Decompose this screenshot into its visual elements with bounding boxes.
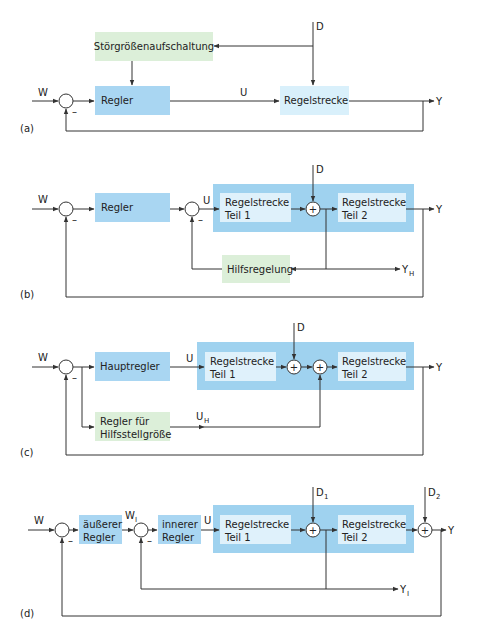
plant-part1-line1: Regelstrecke	[225, 197, 289, 208]
disturbance-d2-sub: 2	[436, 493, 440, 501]
summing-junction-inner	[134, 523, 148, 537]
plant-part2-line2: Teil 2	[341, 369, 368, 380]
plant-part1-line2: Teil 1	[224, 210, 251, 221]
feedforward-label: Störgrößenaufschaltung	[94, 41, 214, 52]
minus-sign-inner: –	[198, 214, 203, 225]
input-w: W	[38, 352, 48, 363]
plant-part2-line1: Regelstrecke	[342, 519, 406, 530]
summing-junction	[59, 360, 73, 374]
inner-output-yi: Y	[399, 584, 407, 595]
panel-b: Regelstrecke Teil 1 Regelstrecke Teil 2 …	[20, 164, 443, 300]
panel-label: (a)	[20, 123, 34, 134]
outer-controller-line2: Regler	[83, 532, 116, 543]
aux-output-yh: Y	[401, 264, 409, 275]
aux-output-sub: H	[409, 270, 414, 278]
input-w: W	[38, 87, 48, 98]
inner-setpoint-wi: W	[125, 510, 135, 521]
controller-label: Regler	[101, 95, 134, 106]
minus-sign: –	[72, 372, 77, 383]
plant-label: Regelstrecke	[284, 95, 348, 106]
output-y: Y	[447, 525, 455, 536]
plus-sign-1: +	[309, 525, 317, 536]
panel-label: (d)	[20, 608, 34, 619]
aux-controller-label: Hilfsregelung	[227, 264, 293, 275]
plant-part2-line1: Regelstrecke	[342, 356, 406, 367]
main-controller-label: Hauptregler	[100, 361, 161, 372]
panel-c: Regelstrecke Teil 1 Regelstrecke Teil 2 …	[20, 322, 443, 458]
inner-controller-line1: innerer	[162, 519, 199, 530]
panel-label: (b)	[20, 289, 34, 300]
panel-a: Störgrößenaufschaltung Regler Regelstrec…	[20, 21, 443, 134]
plus-sign: +	[309, 204, 317, 215]
aux-controller-line1: Regler für	[100, 416, 150, 427]
inner-output-sub: I	[407, 590, 409, 598]
plus-sign-1: +	[290, 362, 298, 373]
minus-sign-inner: –	[147, 535, 152, 546]
plant-part1-line2: Teil 1	[224, 532, 251, 543]
plant-part1-line2: Teil 1	[209, 369, 236, 380]
summing-junction-inner	[185, 202, 199, 216]
aux-signal-sub: H	[204, 417, 209, 425]
inner-controller-line2: Regler	[162, 532, 195, 543]
signal-u: U	[203, 195, 210, 206]
minus-sign-outer: –	[72, 214, 77, 225]
signal-u: U	[186, 353, 193, 364]
plant-part2-line2: Teil 2	[341, 532, 368, 543]
plus-sign-2: +	[421, 525, 429, 536]
panel-d: Regelstrecke Teil 1 Regelstrecke Teil 2 …	[20, 487, 455, 619]
control-diagrams: Störgrößenaufschaltung Regler Regelstrec…	[0, 0, 477, 634]
input-w: W	[34, 515, 44, 526]
aux-signal-uh: U	[196, 411, 203, 422]
panel-label: (c)	[20, 447, 33, 458]
summing-junction-outer	[59, 202, 73, 216]
minus-sign: –	[72, 106, 77, 117]
disturbance-d: D	[316, 164, 324, 175]
output-y: Y	[435, 96, 443, 107]
minus-sign-outer: –	[68, 535, 73, 546]
disturbance-d2: D	[428, 487, 436, 498]
aux-controller-line2: Hilfsstellgröße	[100, 429, 171, 440]
disturbance-d1: D	[316, 487, 324, 498]
controller-label: Regler	[101, 202, 134, 213]
inner-setpoint-sub: I	[135, 516, 137, 524]
plus-sign-2: +	[316, 362, 324, 373]
plant-part2-line2: Teil 2	[341, 210, 368, 221]
plant-part1-line1: Regelstrecke	[225, 519, 289, 530]
output-y: Y	[435, 362, 443, 373]
disturbance-d: D	[316, 21, 324, 32]
disturbance-d: D	[297, 322, 305, 333]
output-y: Y	[435, 204, 443, 215]
summing-junction	[59, 94, 73, 108]
signal-u: U	[240, 87, 247, 98]
summing-junction-outer	[55, 523, 69, 537]
plant-part1-line1: Regelstrecke	[210, 356, 274, 367]
input-w: W	[38, 194, 48, 205]
outer-controller-line1: äußerer	[83, 519, 123, 530]
plant-part2-line1: Regelstrecke	[342, 197, 406, 208]
signal-u: U	[204, 515, 211, 526]
disturbance-d1-sub: 1	[324, 493, 328, 501]
